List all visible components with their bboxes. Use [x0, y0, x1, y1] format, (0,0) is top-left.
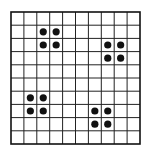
- dot: [40, 107, 47, 114]
- dot: [104, 121, 111, 128]
- dot: [104, 55, 111, 62]
- dot: [40, 94, 47, 101]
- dot: [40, 28, 47, 35]
- dot: [104, 107, 111, 114]
- dot: [53, 28, 60, 35]
- dot: [117, 41, 124, 48]
- grid-lines: [11, 12, 140, 144]
- grid-canvas: [0, 0, 149, 156]
- dot-grid-diagram: [0, 0, 149, 156]
- dot: [91, 121, 98, 128]
- dot: [27, 94, 34, 101]
- dot: [91, 107, 98, 114]
- dot: [104, 41, 111, 48]
- dot: [117, 55, 124, 62]
- dot: [53, 41, 60, 48]
- dot: [27, 107, 34, 114]
- dot: [40, 41, 47, 48]
